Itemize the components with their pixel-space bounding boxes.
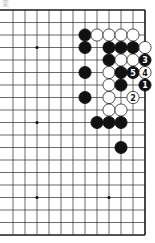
black-stone-move-1: 1 (139, 79, 151, 91)
move-number: 1 (142, 81, 148, 90)
star-point (107, 196, 110, 199)
black-stone (127, 41, 139, 53)
star-point (35, 121, 38, 124)
star-point (35, 46, 38, 49)
black-stone (103, 116, 115, 128)
white-stone (139, 41, 151, 53)
black-stone (115, 141, 127, 153)
black-stone-move-5: 5 (127, 66, 139, 78)
white-stone (91, 29, 103, 41)
move-number: 2 (130, 94, 136, 103)
black-stone (91, 116, 103, 128)
white-stone (127, 29, 139, 41)
black-stone (115, 116, 127, 128)
black-stone-move-3: 3 (139, 54, 151, 66)
white-stone (115, 29, 127, 41)
white-stone (115, 54, 127, 66)
black-stone (103, 54, 115, 66)
move-number: 3 (142, 56, 148, 65)
white-stone-move-2: 2 (127, 91, 139, 103)
black-stone (103, 41, 115, 53)
white-stone (115, 104, 127, 116)
black-stone (115, 66, 127, 78)
white-stone (103, 66, 115, 78)
white-stone (103, 29, 115, 41)
go-board: 35412 (0, 0, 155, 243)
black-stone (79, 66, 91, 78)
black-stone (79, 29, 91, 41)
white-stone (103, 104, 115, 116)
white-stone (127, 54, 139, 66)
star-point (35, 196, 38, 199)
move-number: 5 (130, 69, 136, 78)
white-stone (103, 79, 115, 91)
black-stone (79, 91, 91, 103)
white-stone-move-4: 4 (139, 66, 151, 78)
white-stone (103, 91, 115, 103)
move-number: 4 (142, 69, 148, 78)
black-stone (115, 41, 127, 53)
black-stone (115, 79, 127, 91)
black-stone (79, 41, 91, 53)
